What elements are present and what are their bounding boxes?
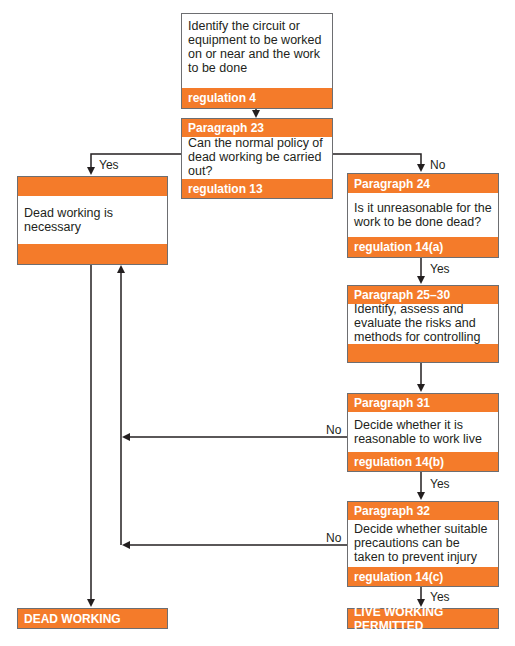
node-body: Can the normal policy of dead working be… [182, 137, 332, 179]
node-footer-regulation: regulation 14(c) [348, 567, 498, 586]
node-body: Decide whether it is reasonable to work … [348, 412, 498, 452]
node-header: Paragraph 23 [182, 119, 332, 137]
terminal-live-working-permitted: LIVE WORKING PERMITTED [347, 608, 499, 629]
edge-label-para31-no: No [326, 423, 341, 437]
node-body: Is it unreasonable for the work to be do… [348, 193, 498, 237]
node-dead-working-necessary: Dead working is necessary [17, 176, 168, 265]
node-body: Dead working is necessary [18, 196, 167, 244]
node-body: Identify the circuit or equipment to be … [182, 14, 332, 88]
node-paragraph-32: Paragraph 32 Decide whether suitable pre… [347, 501, 499, 587]
node-header: Paragraph 31 [348, 394, 498, 412]
node-footer-regulation: regulation 14(a) [348, 237, 498, 257]
edge-label-para24-yes: Yes [430, 262, 450, 276]
node-footer [348, 344, 498, 362]
terminal-dead-working: DEAD WORKING [17, 608, 168, 629]
node-body: Decide whether suitable precautions can … [348, 520, 498, 567]
node-paragraph-25-30: Paragraph 25–30 Identify, assess and eva… [347, 285, 499, 363]
node-identify-circuit: Identify the circuit or equipment to be … [181, 13, 333, 109]
node-footer [18, 244, 167, 264]
node-paragraph-24: Paragraph 24 Is it unreasonable for the … [347, 173, 499, 258]
node-paragraph-23: Paragraph 23 Can the normal policy of de… [181, 118, 333, 199]
node-footer-regulation: regulation 14(b) [348, 452, 498, 471]
node-body: Identify, assess and evaluate the risks … [348, 304, 498, 344]
node-header: Paragraph 32 [348, 502, 498, 520]
node-footer-regulation: regulation 4 [182, 88, 332, 108]
node-footer-regulation: regulation 13 [182, 179, 332, 198]
node-header: Paragraph 24 [348, 174, 498, 193]
node-paragraph-31: Paragraph 31 Decide whether it is reason… [347, 393, 499, 472]
edge-label-para32-no: No [326, 531, 341, 545]
edge-label-para31-yes: Yes [430, 477, 450, 491]
edge-label-para23-no: No [430, 158, 445, 172]
edge-label-para32-yes: Yes [430, 590, 450, 604]
edge-label-para23-yes: Yes [99, 158, 119, 172]
node-header [18, 177, 167, 196]
